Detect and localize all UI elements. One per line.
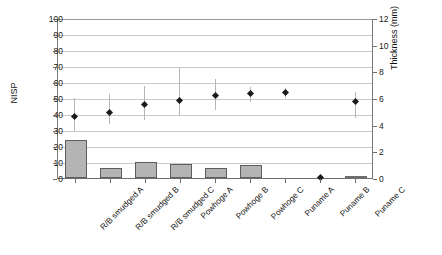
gridline: [58, 115, 372, 116]
bar: [240, 165, 262, 178]
right-axis-tick-label: 0: [379, 175, 405, 183]
right-axis-tick-mark: [373, 179, 377, 180]
gridline: [58, 19, 372, 20]
x-axis-tick-mark: [75, 179, 76, 183]
x-axis-tick-mark: [180, 179, 181, 183]
x-axis-tick-mark: [320, 179, 321, 183]
gridline: [58, 163, 372, 164]
left-axis-tick-mark: [53, 35, 57, 36]
left-axis-tick-mark: [53, 51, 57, 52]
x-axis-tick-mark: [110, 179, 111, 183]
right-axis-tick-label: 12: [379, 15, 405, 23]
bar: [205, 168, 227, 178]
right-axis-tick-mark: [373, 46, 377, 47]
right-axis-tick-mark: [373, 72, 377, 73]
left-axis-tick-label: 50: [35, 95, 63, 103]
left-axis-tick-mark: [53, 67, 57, 68]
left-axis-tick-label: 90: [35, 31, 63, 39]
right-axis-tick-label: 10: [379, 42, 405, 50]
left-axis-tick-label: 70: [35, 63, 63, 71]
x-axis-category-label: Puname B: [339, 185, 372, 218]
right-axis-tick-label: 2: [379, 148, 405, 156]
left-axis-tick-label: 60: [35, 79, 63, 87]
left-axis-tick-mark: [53, 179, 57, 180]
gridline: [58, 131, 372, 132]
left-axis-tick-mark: [53, 19, 57, 20]
gridline: [58, 67, 372, 68]
x-axis-tick-mark: [250, 179, 251, 183]
left-axis-tick-mark: [53, 115, 57, 116]
right-axis-tick-mark: [373, 99, 377, 100]
x-axis-category-label: Puname C: [374, 185, 408, 219]
right-axis-tick-mark: [373, 126, 377, 127]
left-axis-tick-label: 80: [35, 47, 63, 55]
left-axis-tick-label: 10: [35, 159, 63, 167]
left-axis-title: NISP: [9, 63, 19, 123]
right-axis-tick-mark: [373, 152, 377, 153]
gridline: [58, 147, 372, 148]
left-axis-tick-label: 20: [35, 143, 63, 151]
left-axis-tick-mark: [53, 147, 57, 148]
bar: [170, 164, 192, 178]
chart-figure: NISP Thickness (mm) 10090807060504030201…: [0, 0, 442, 255]
x-axis-category-label: Powhoge B: [234, 185, 270, 221]
x-axis-tick-mark: [145, 179, 146, 183]
left-axis-tick-mark: [53, 99, 57, 100]
error-bar: [179, 68, 180, 116]
bar: [135, 162, 157, 178]
gridline: [58, 35, 372, 36]
left-axis-tick-label: 30: [35, 127, 63, 135]
left-axis-tick-label: 40: [35, 111, 63, 119]
left-axis-tick-mark: [53, 163, 57, 164]
x-axis-tick-mark: [215, 179, 216, 183]
left-axis-tick-label: 100: [35, 15, 63, 23]
x-axis-category-label: Powhoge C: [270, 185, 306, 221]
bar: [65, 140, 87, 178]
left-axis-tick-mark: [53, 131, 57, 132]
left-axis-tick-mark: [53, 83, 57, 84]
bar: [345, 176, 367, 178]
x-axis-category-label: Puname A: [303, 185, 336, 218]
bar: [100, 168, 122, 178]
x-axis-tick-mark: [285, 179, 286, 183]
right-axis-tick-mark: [373, 19, 377, 20]
gridline: [58, 51, 372, 52]
left-axis-tick-label: 0: [35, 175, 63, 183]
right-axis-tick-label: 8: [379, 68, 405, 76]
right-axis-tick-label: 4: [379, 122, 405, 130]
x-axis-tick-mark: [355, 179, 356, 183]
right-axis-tick-label: 6: [379, 95, 405, 103]
